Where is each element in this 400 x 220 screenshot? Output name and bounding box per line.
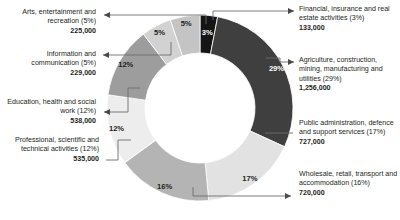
arrowhead-financial [288, 8, 294, 14]
callout-label-name: Education, health and social work (12%) [7, 98, 96, 115]
callout-label-value: 133,000 [299, 24, 325, 32]
callout-label-name: Financial, insurance and real estate act… [299, 5, 390, 22]
callout-label-value: 1,256,000 [299, 84, 331, 92]
donut-chart-figure: 3%29%17%16%12%12%5%5% Arts, entertainmen… [0, 0, 400, 220]
slice-percent-label: 16% [157, 182, 172, 191]
arrowhead-agriculture [288, 59, 294, 65]
callout-arts-entertainment: Arts, entertainment and recreation (5%) … [0, 8, 96, 36]
callout-label-name: Information and communication (5%) [31, 50, 96, 67]
callout-education-health: Education, health and social work (12%) … [0, 98, 96, 126]
callout-label-value: 535,000 [73, 155, 99, 163]
callout-label-name: Arts, entertainment and recreation (5%) [22, 8, 96, 25]
callout-label-name: Agriculture, construction, mining, manuf… [299, 56, 383, 83]
callout-label-value: 727,000 [299, 138, 325, 146]
donut-slice[interactable] [210, 17, 293, 147]
callout-label-name: Professional, scientific and technical a… [15, 136, 99, 153]
callout-professional-scientific: Professional, scientific and technical a… [0, 136, 99, 164]
callout-label-value: 225,000 [70, 27, 96, 35]
donut-slice[interactable] [205, 131, 284, 201]
callout-label-value: 538,000 [70, 117, 96, 125]
slice-percent-label: 12% [109, 124, 124, 133]
slice-percent-label: 5% [154, 28, 165, 37]
callout-label-value: 720,000 [299, 189, 325, 197]
arrowhead-information [103, 52, 109, 58]
arrowhead-wholesale [285, 193, 291, 199]
callout-agriculture-construction: Agriculture, construction, mining, manuf… [299, 56, 400, 94]
callout-label-name: Public administration, defence and suppo… [299, 119, 394, 136]
callout-information-communication: Information and communication (5%) 229,0… [0, 50, 96, 78]
slice-percent-label: 3% [202, 28, 213, 37]
callout-wholesale-retail: Wholesale, retail, transport and accommo… [299, 170, 400, 198]
callout-label-name: Wholesale, retail, transport and accommo… [299, 170, 397, 187]
callout-financial-insurance: Financial, insurance and real estate act… [299, 5, 400, 33]
donut-slices [107, 15, 293, 201]
slice-percent-label: 12% [118, 60, 133, 69]
slice-percent-label: 17% [242, 174, 257, 183]
arrowhead-arts [104, 12, 110, 18]
callout-label-value: 229,000 [70, 69, 96, 77]
slice-percent-label: 5% [181, 19, 192, 28]
slice-percent-label: 29% [269, 64, 284, 73]
callout-public-administration: Public administration, defence and suppo… [299, 119, 400, 147]
